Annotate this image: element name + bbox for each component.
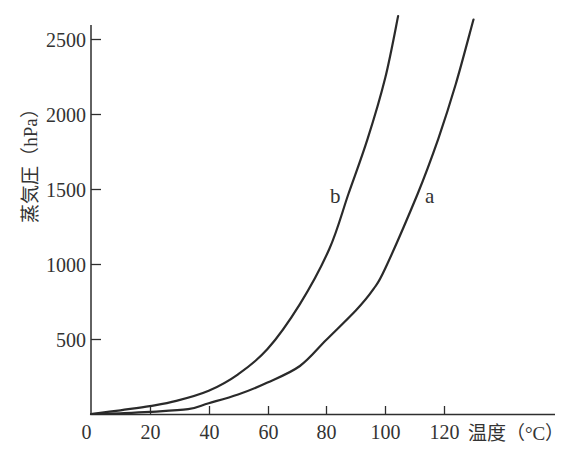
curve-b [91,16,398,414]
x-axis-label: 温度（°C） [468,423,564,444]
chart-canvas: 5001000150020002500 020406080100120 ab 蒸… [0,0,585,457]
curve-label-a: a [425,184,435,208]
y-axis-ticks: 5001000150020002500 [46,29,101,351]
y-tick-label: 500 [56,329,86,351]
curve-label-b: b [330,184,341,208]
x-tick-label: 20 [141,421,161,443]
x-tick-label: 100 [371,421,401,443]
plot-area: 5001000150020002500 020406080100120 ab [46,16,555,443]
x-tick-label: 60 [259,421,279,443]
x-tick-label: 0 [82,421,92,443]
y-tick-label: 2500 [46,29,86,51]
y-axis-label: 蒸気圧（hPa） [20,99,41,223]
y-tick-label: 2000 [46,104,86,126]
curve-a [91,20,474,415]
x-tick-label: 120 [430,421,460,443]
x-tick-label: 80 [317,421,337,443]
x-tick-label: 40 [200,421,220,443]
curves: ab [91,16,474,414]
vapor-pressure-chart: 5001000150020002500 020406080100120 ab 蒸… [0,0,585,457]
y-tick-label: 1500 [46,179,86,201]
y-tick-label: 1000 [46,254,86,276]
